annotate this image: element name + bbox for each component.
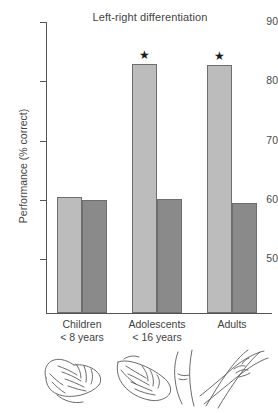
bar-adults-dark	[232, 203, 257, 313]
hand-sketch-children	[38, 352, 114, 410]
y-tick-mark	[40, 81, 46, 82]
significance-star-adolescents-light: ★	[130, 49, 160, 61]
x-axis-line	[46, 313, 272, 314]
plot-area: ★★	[47, 22, 272, 313]
hand-sketch-adults	[198, 348, 276, 410]
y-axis-label: Performance (% correct)	[17, 81, 29, 251]
figure-canvas: Left-right differentiation Performance (…	[0, 0, 278, 413]
bar-adults-light	[207, 65, 232, 313]
y-tick-mark	[40, 200, 46, 201]
y-tick-mark	[40, 141, 46, 142]
category-name: Adults	[187, 318, 277, 331]
hand-sketch-adolescents	[112, 348, 196, 410]
bar-children-dark	[82, 200, 107, 313]
y-tick-mark	[40, 259, 46, 260]
category-label-adults: Adults	[187, 318, 277, 331]
bar-adolescents-dark	[157, 199, 182, 313]
bar-children-light	[57, 197, 82, 313]
bar-adolescents-light	[132, 64, 157, 313]
category-sublabel: < 16 years	[112, 331, 202, 344]
y-tick-mark	[40, 22, 46, 23]
significance-star-adults-light: ★	[205, 50, 235, 62]
